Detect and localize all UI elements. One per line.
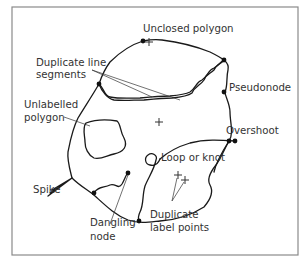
bottom-node-icon [137,219,142,224]
overshoot-junction-icon [227,139,232,144]
label-duplicate-points-1: Duplicate [150,209,199,220]
boundary-node-icon [92,191,97,196]
junction-node-icon [97,82,102,87]
label-unlabelled-1: Unlabelled [24,99,78,110]
label-duplicate-points-2: label points [150,222,209,233]
label-dangling-2: node [90,231,115,242]
pseudonode-icon [222,90,227,95]
unclosed-node-icon [141,39,146,44]
overshoot-end-icon [233,139,238,144]
label-loop-or-knot: Loop or knot [161,152,225,163]
label-unlabelled-2: polygon [24,112,65,123]
label-duplicate-line-2: segments [36,69,86,80]
digitizing-errors-diagram: Unclosed polygon Duplicate line segments… [0,0,305,262]
label-overshoot: Overshoot [226,125,279,136]
label-pseudonode: Pseudonode [229,82,291,93]
dangling-node-icon [126,171,131,176]
label-duplicate-line-1: Duplicate line [36,57,106,68]
pseudonode-top-icon [222,58,227,63]
label-dangling-1: Dangling [90,217,136,228]
label-unclosed-polygon: Unclosed polygon [143,23,234,34]
label-spike: Spike [33,184,61,195]
